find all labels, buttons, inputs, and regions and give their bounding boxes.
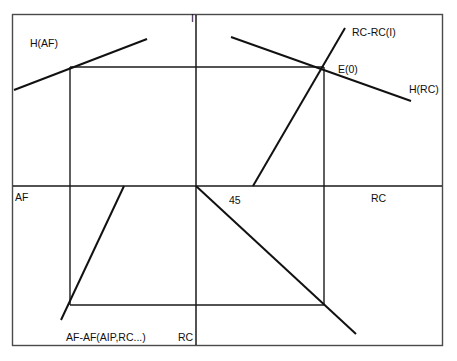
four-quadrant-diagram: H(AF) I RC-RC(I) E(0) H(RC) AF 45 RC AF-…: [0, 0, 457, 361]
label-af-axis: AF: [15, 191, 28, 203]
label-rc-axis-bottom: RC: [178, 331, 194, 343]
label-e-zero: E(0): [338, 63, 358, 75]
label-rc-rc-i: RC-RC(I): [352, 26, 396, 38]
label-h-af: H(AF): [30, 37, 58, 49]
label-rc-axis-right: RC: [371, 192, 387, 204]
label-af-af-function: AF-AF(AIP,RC...): [66, 331, 146, 343]
label-h-rc: H(RC): [409, 83, 439, 95]
label-i-axis: I: [191, 12, 194, 24]
curve-rc-rc-i: [253, 28, 345, 186]
label-45-degree: 45: [229, 194, 241, 206]
curve-45-degree-ray: [196, 186, 356, 334]
diagram-root: H(AF) I RC-RC(I) E(0) H(RC) AF 45 RC AF-…: [0, 0, 457, 361]
diagram-border: [13, 15, 443, 346]
